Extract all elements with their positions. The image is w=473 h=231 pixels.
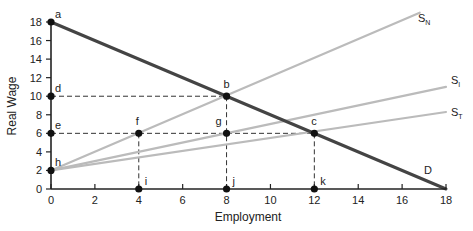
- y-tick-label: 16: [30, 35, 42, 47]
- x-tick-label: 6: [180, 194, 186, 206]
- point-label-k: k: [320, 175, 326, 187]
- point-b: [223, 93, 230, 100]
- series-lines: [51, 13, 446, 189]
- y-tick-label: 6: [36, 127, 42, 139]
- curve-st: [51, 112, 446, 170]
- point-j: [223, 185, 230, 192]
- x-tick-label: 2: [92, 194, 98, 206]
- x-tick-label: 10: [264, 194, 276, 206]
- curve-si: [51, 87, 446, 171]
- series-label-sn: SN: [418, 12, 430, 26]
- y-tick-label: 10: [30, 90, 42, 102]
- x-tick-label: 0: [48, 194, 54, 206]
- point-label-a: a: [55, 8, 62, 20]
- y-tick-label: 4: [36, 146, 42, 158]
- y-tick-label: 14: [30, 53, 42, 65]
- point-label-b: b: [224, 78, 230, 90]
- point-k: [311, 185, 318, 192]
- x-tick-label: 18: [440, 194, 452, 206]
- x-tick-label: 4: [136, 194, 142, 206]
- point-label-c: c: [311, 115, 317, 127]
- y-tick-label: 18: [30, 16, 42, 28]
- point-c: [311, 130, 318, 137]
- point-label-f: f: [136, 115, 140, 127]
- x-tick-label: 12: [308, 194, 320, 206]
- point-g: [223, 130, 230, 137]
- curve-sn: [51, 13, 420, 171]
- point-h: [47, 167, 54, 174]
- point-a: [47, 18, 54, 25]
- point-f: [135, 130, 142, 137]
- point-label-h: h: [55, 156, 61, 168]
- y-tick-label: 0: [36, 183, 42, 195]
- point-e: [47, 130, 54, 137]
- x-tick-label: 16: [396, 194, 408, 206]
- point-label-j: j: [232, 175, 235, 187]
- point-label-e: e: [55, 119, 61, 131]
- x-tick-label: 8: [223, 194, 229, 206]
- y-tick-label: 12: [30, 72, 42, 84]
- point-label-i: i: [145, 175, 147, 187]
- curve-d: [51, 22, 446, 189]
- point-d: [47, 93, 54, 100]
- series-labels: DSNSIST: [418, 12, 463, 176]
- series-label-si: SI: [451, 74, 460, 88]
- series-label-d: D: [424, 164, 432, 176]
- axes: 024681012141618024681012141618: [30, 16, 452, 206]
- labor-market-chart: 024681012141618024681012141618 abcdefghi…: [0, 0, 473, 231]
- point-i: [135, 185, 142, 192]
- point-label-g: g: [216, 115, 222, 127]
- point-label-d: d: [55, 82, 61, 94]
- x-axis-label: Employment: [215, 210, 282, 224]
- y-tick-label: 8: [36, 109, 42, 121]
- y-axis-label: Real Wage: [5, 76, 19, 135]
- y-tick-label: 2: [36, 164, 42, 176]
- x-tick-label: 14: [352, 194, 364, 206]
- series-label-st: ST: [451, 106, 463, 120]
